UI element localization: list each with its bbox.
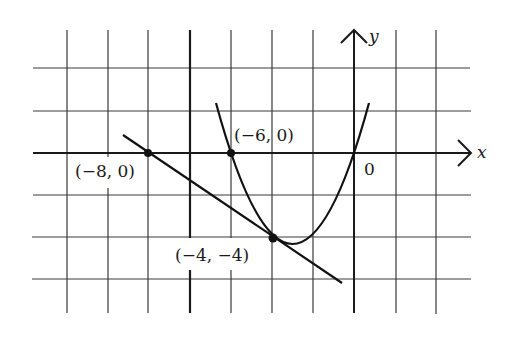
x-axis-label: x — [477, 142, 487, 162]
point-label-neg6-0: (−6, 0) — [234, 125, 294, 145]
point-label-neg8-0: (−8, 0) — [75, 161, 135, 181]
coordinate-plane-diagram: (−8, 0) (−6, 0) (−4, −4) 0 x y — [0, 0, 514, 345]
point-label-neg4-neg4: (−4, −4) — [175, 245, 249, 265]
point-neg4-neg4 — [269, 234, 278, 243]
y-axis-label: y — [368, 26, 379, 46]
point-neg6-0 — [227, 149, 235, 157]
origin-label: 0 — [364, 159, 375, 179]
point-neg8-0 — [144, 149, 152, 157]
